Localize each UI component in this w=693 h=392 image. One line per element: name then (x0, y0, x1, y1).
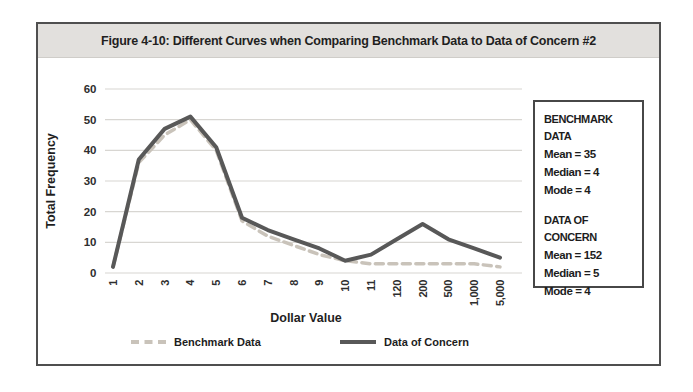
svg-text:11: 11 (365, 280, 377, 291)
svg-text:8: 8 (288, 280, 300, 286)
svg-text:2: 2 (133, 280, 145, 286)
svg-text:0: 0 (90, 267, 96, 279)
svg-text:10: 10 (84, 236, 96, 248)
concern-stats-heading-line1: DATA OF (544, 212, 636, 229)
figure-title: Figure 4-10: Different Curves when Compa… (101, 34, 596, 48)
page: { "figure": { "title": "Figure 4-10: Dif… (0, 0, 693, 392)
concern-median: Median = 5 (544, 264, 636, 282)
svg-text:7: 7 (262, 280, 274, 286)
y-axis-tick-labels: 0102030405060 (84, 83, 96, 279)
svg-text:6: 6 (236, 280, 248, 286)
svg-text:1,000: 1,000 (468, 280, 480, 306)
benchmark-stats-heading: BENCHMARK DATA (544, 111, 636, 145)
benchmark-mode: Mode = 4 (544, 181, 636, 199)
svg-text:9: 9 (313, 280, 325, 286)
svg-text:30: 30 (84, 175, 96, 187)
benchmark-median: Median = 4 (544, 163, 636, 181)
svg-text:20: 20 (84, 206, 96, 218)
svg-text:4: 4 (184, 279, 196, 286)
figure-title-bar: Figure 4-10: Different Curves when Compa… (38, 24, 659, 58)
svg-text:500: 500 (442, 280, 454, 298)
svg-text:60: 60 (84, 83, 96, 95)
svg-text:120: 120 (391, 280, 403, 298)
svg-text:10: 10 (339, 280, 351, 292)
y-axis-title: Total Frequency (44, 133, 58, 229)
x-axis-tick-labels: 12345678910111202005001,0005,000 (107, 279, 506, 306)
x-axis-title: Dollar Value (270, 311, 342, 325)
benchmark-mean: Mean = 35 (544, 145, 636, 163)
legend-label-dashed: Benchmark Data (174, 336, 262, 348)
concern-mode: Mode = 4 (544, 282, 636, 300)
chart-legend: Benchmark DataData of Concern (131, 336, 469, 348)
legend-label-solid: Data of Concern (384, 336, 469, 348)
svg-text:1: 1 (107, 280, 119, 286)
svg-text:5,000: 5,000 (494, 280, 506, 306)
concern-stats-heading-line2: CONCERN (544, 229, 636, 246)
figure-box: Figure 4-10: Different Curves when Compa… (36, 22, 661, 366)
concern-mean: Mean = 152 (544, 246, 636, 264)
svg-text:3: 3 (159, 280, 171, 286)
svg-text:200: 200 (417, 280, 429, 298)
svg-text:40: 40 (84, 144, 96, 156)
data-of-concern-line (113, 117, 500, 267)
stats-box: BENCHMARK DATA Mean = 35 Median = 4 Mode… (533, 100, 644, 288)
svg-text:5: 5 (210, 280, 222, 286)
svg-text:50: 50 (84, 114, 96, 126)
